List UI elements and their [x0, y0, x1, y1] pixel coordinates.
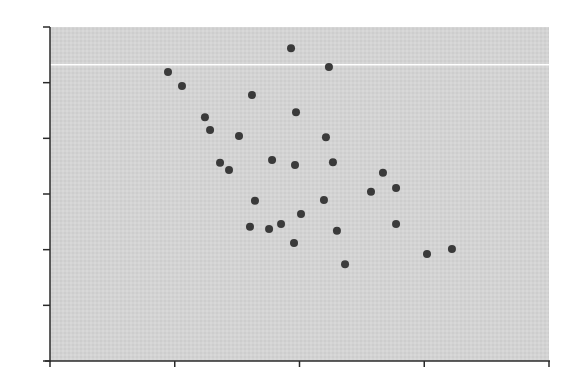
data-point [325, 63, 333, 71]
plot-area [50, 27, 549, 361]
data-point [248, 91, 256, 99]
data-point [235, 132, 243, 140]
data-point [290, 239, 298, 247]
data-point [206, 126, 214, 134]
data-point [341, 260, 349, 268]
data-point [291, 161, 299, 169]
data-point [268, 156, 276, 164]
data-point [392, 184, 400, 192]
data-point [265, 225, 273, 233]
data-point [329, 158, 337, 166]
data-point [246, 223, 254, 231]
data-point [164, 68, 172, 76]
data-point [320, 196, 328, 204]
data-point [201, 113, 209, 121]
data-point [251, 197, 259, 205]
data-point [297, 210, 305, 218]
data-point [178, 82, 186, 90]
data-point [379, 169, 387, 177]
data-point [367, 188, 375, 196]
data-point [287, 44, 295, 52]
data-point [333, 227, 341, 235]
scatter-chart [0, 0, 577, 389]
data-point [448, 245, 456, 253]
data-point [392, 220, 400, 228]
data-point [277, 220, 285, 228]
data-point [292, 108, 300, 116]
data-point [225, 166, 233, 174]
data-point [322, 133, 330, 141]
data-point [423, 250, 431, 258]
data-point [216, 159, 224, 167]
